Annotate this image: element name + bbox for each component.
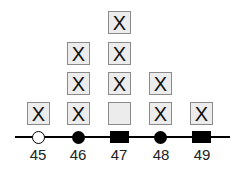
tick-label-49: 49 bbox=[187, 146, 217, 163]
x-box: X bbox=[67, 72, 90, 95]
dot-plot-diagram: X X X X X X X X X X 45 46 47 48 49 bbox=[0, 0, 244, 170]
x-box: X bbox=[108, 42, 131, 65]
filled-square-marker bbox=[110, 131, 129, 143]
tick-label-46: 46 bbox=[63, 146, 93, 163]
x-box: X bbox=[27, 102, 50, 125]
filled-circle-marker bbox=[72, 131, 85, 144]
tick-label-45: 45 bbox=[23, 146, 53, 163]
empty-box bbox=[108, 102, 131, 125]
open-circle-marker bbox=[32, 131, 45, 144]
x-box: X bbox=[108, 72, 131, 95]
x-box: X bbox=[149, 102, 172, 125]
x-box: X bbox=[67, 42, 90, 65]
tick-label-48: 48 bbox=[146, 146, 176, 163]
filled-square-marker bbox=[192, 131, 211, 143]
filled-circle-marker bbox=[154, 131, 167, 144]
x-box: X bbox=[149, 72, 172, 95]
x-box: X bbox=[108, 11, 131, 34]
tick-label-47: 47 bbox=[104, 146, 134, 163]
x-box: X bbox=[67, 102, 90, 125]
x-box: X bbox=[190, 102, 213, 125]
